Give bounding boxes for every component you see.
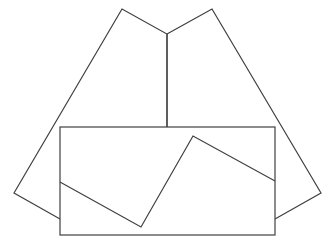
geometric-diagram [0, 0, 331, 247]
